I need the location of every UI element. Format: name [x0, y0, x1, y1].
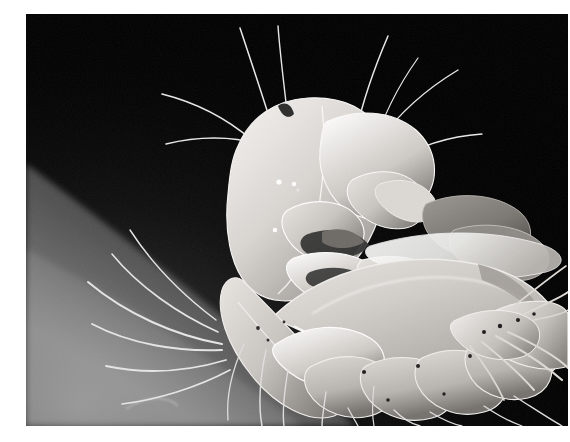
sem-canvas [26, 14, 568, 426]
sem-noise-overlay [26, 14, 568, 426]
sem-micrograph [26, 14, 568, 426]
screenshot-root: scanning-electron-micrograph mite latera… [0, 0, 570, 442]
